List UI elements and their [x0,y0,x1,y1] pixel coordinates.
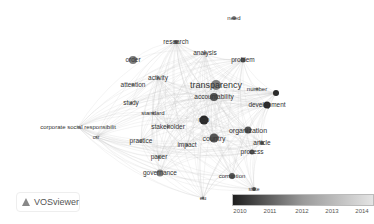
node-label[interactable]: need [227,15,240,21]
legend-tick-label: 2011 [264,208,277,214]
node-label[interactable]: practice [130,138,153,145]
node-label[interactable]: organization [229,127,267,134]
node-label[interactable]: corruption [219,173,246,179]
legend-tick-label: 2012 [295,208,308,214]
vosviewer-logo-icon [21,197,31,207]
node-label[interactable]: order [125,57,140,64]
node-label[interactable]: research [163,39,188,46]
node-label[interactable]: study [123,100,139,107]
node-label[interactable]: ue [273,91,279,96]
node-label[interactable]: country [203,135,226,142]
node-label[interactable]: transparency [190,81,242,90]
legend-tick-label: 2010 [233,208,246,214]
node-label[interactable]: governance [143,170,177,177]
node-label[interactable]: development [248,102,285,109]
node-label[interactable]: ngo [199,117,210,124]
node-label[interactable]: attention [121,82,146,89]
node-label[interactable]: number [247,86,267,92]
legend-tick-label: 2013 [325,208,338,214]
legend-gradient-bar [232,194,374,206]
node-label[interactable]: stakeholder [151,124,185,131]
node-label[interactable]: csr [93,135,100,140]
node-label[interactable]: article [253,140,270,147]
node-label[interactable]: standard [141,110,164,116]
node-label[interactable]: process [241,149,264,156]
node-label[interactable]: eu [200,195,207,201]
node-label[interactable]: impact [177,142,196,149]
node-label[interactable]: problem [231,57,254,64]
node-label[interactable]: activity [148,75,168,82]
vosviewer-logo-text: VOSviewer [34,197,79,207]
vosviewer-logo: VOSviewer [16,192,80,212]
node-label[interactable]: analysis [193,50,216,57]
legend-tick-label: 2014 [355,208,368,214]
node-label[interactable]: state [249,187,260,192]
node-label[interactable]: accountability [194,94,233,101]
node-label[interactable]: paper [151,154,168,161]
node-label[interactable]: corporate social responsibilit [40,124,116,130]
